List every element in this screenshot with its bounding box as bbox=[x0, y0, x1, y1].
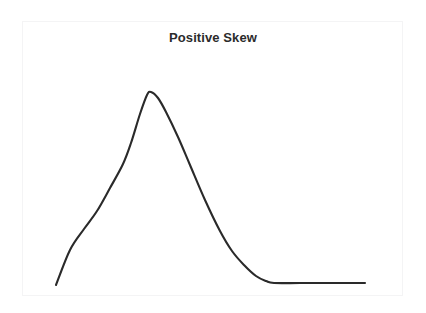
density-curve-plot bbox=[0, 0, 426, 313]
positive-skew-curve bbox=[56, 92, 365, 285]
chart-figure: Positive Skew bbox=[0, 0, 426, 313]
